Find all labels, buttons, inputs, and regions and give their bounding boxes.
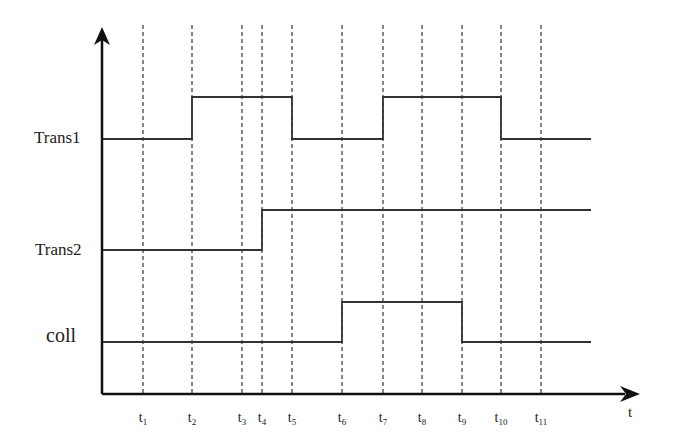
signal-trans2-waveform <box>102 210 591 250</box>
time-label-t2: t2 <box>188 410 196 427</box>
time-label-t7: t7 <box>379 410 387 427</box>
signal-label-coll: coll <box>46 324 76 347</box>
time-label-t10: t10 <box>495 410 508 427</box>
timing-diagram: t1t2t3t4t5t6t7t8t9t10t11Trans1Trans2coll… <box>0 0 678 447</box>
signal-label-trans1: Trans1 <box>34 128 81 148</box>
x-axis-label: t <box>628 404 632 421</box>
signal-trans1-waveform <box>102 97 591 139</box>
time-label-t11: t11 <box>535 410 548 427</box>
time-label-t3: t3 <box>238 410 246 427</box>
time-label-t1: t1 <box>139 410 147 427</box>
time-label-t9: t9 <box>458 410 466 427</box>
diagram-canvas <box>0 0 678 447</box>
time-label-t4: t4 <box>258 410 266 427</box>
signal-coll-waveform <box>102 302 591 342</box>
time-label-t5: t5 <box>288 410 296 427</box>
time-label-t6: t6 <box>338 410 346 427</box>
signal-label-trans2: Trans2 <box>35 240 82 260</box>
time-label-t8: t8 <box>418 410 426 427</box>
